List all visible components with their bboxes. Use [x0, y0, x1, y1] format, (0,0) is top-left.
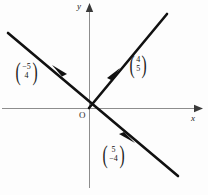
paren-close: ): [32, 62, 37, 83]
vector-components: 5 −4: [109, 146, 118, 164]
vector-label-5-minus4: ( 5 −4 ): [101, 145, 126, 166]
vector-diagram: x y O ( −5 4 ) ( 4 5 ) ( 5 −4 ): [0, 0, 208, 195]
vector-components: 4 5: [136, 56, 140, 74]
vector-component-bottom: −4: [109, 155, 118, 164]
paren-open: (: [130, 55, 135, 76]
paren-close: ): [142, 55, 147, 76]
vector-component-bottom: 5: [136, 65, 140, 74]
paren-close: ): [119, 145, 124, 166]
y-axis-arrowhead: [86, 3, 93, 12]
x-axis-label: x: [191, 114, 195, 123]
origin-label: O: [79, 111, 86, 120]
paren-open: (: [16, 62, 21, 83]
vector-components: −5 4: [22, 63, 31, 81]
vector-label-minus5-4: ( −5 4 ): [14, 62, 39, 83]
vector-component-bottom: 4: [25, 72, 29, 81]
vector-label-4-5: ( 4 5 ): [128, 55, 149, 76]
y-axis-label: y: [77, 2, 81, 11]
x-axis-arrowhead: [194, 105, 203, 112]
paren-open: (: [103, 145, 108, 166]
